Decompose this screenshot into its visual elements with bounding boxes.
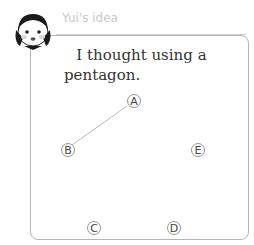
point-d: D [168, 222, 181, 236]
svg-text:A: A [130, 95, 138, 108]
point-e: E [192, 144, 205, 158]
point-c: C [88, 222, 101, 236]
svg-text:C: C [90, 222, 98, 235]
point-b: B [62, 144, 75, 158]
pentagon-diagram: A B E C D [0, 0, 254, 245]
svg-text:D: D [170, 222, 178, 235]
point-a: A [128, 95, 141, 109]
segment-a-b [72, 106, 127, 145]
svg-text:E: E [195, 144, 202, 157]
svg-text:B: B [64, 144, 72, 157]
